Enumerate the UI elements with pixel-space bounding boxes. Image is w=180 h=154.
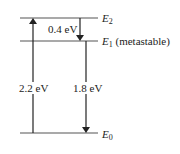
level-label-e0: E0 (102, 128, 113, 144)
level-symbol: E (102, 128, 109, 140)
transition-label-1-8ev: 1.8 eV (72, 82, 103, 94)
diagram-graphics (0, 0, 180, 154)
level-subscript: 2 (109, 17, 113, 26)
level-note: (metastable) (115, 35, 169, 47)
transition-label-0-4ev: 0.4 eV (47, 23, 78, 35)
level-symbol: E (102, 12, 109, 24)
energy-level-diagram: 2.2 eV 0.4 eV 1.8 eV E2 E1 (metastable) … (0, 0, 180, 154)
transition-label-2-2ev: 2.2 eV (18, 82, 49, 94)
level-subscript: 1 (109, 40, 113, 49)
level-label-e2: E2 (102, 12, 113, 28)
level-subscript: 0 (109, 133, 113, 142)
level-label-e1: E1 (metastable) (102, 35, 170, 51)
level-symbol: E (102, 35, 109, 47)
